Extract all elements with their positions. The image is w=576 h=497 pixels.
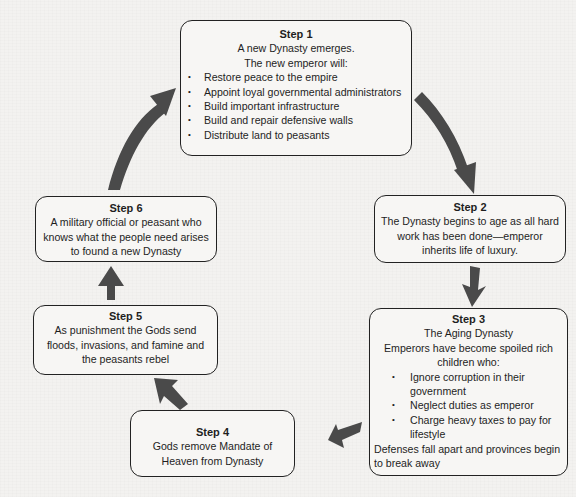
step-5-box: Step 5 As punishment the Gods send flood…	[33, 305, 218, 375]
step-1-bullet: Restore peace to the empire	[186, 70, 406, 84]
step-3-bullet-list: Ignore corruption in their government Ne…	[390, 370, 563, 442]
step-1-line-1: A new Dynasty emerges.	[186, 41, 406, 55]
step-4-box: Step 4 Gods remove Mandate of Heaven fro…	[130, 410, 295, 477]
step-4-text: Gods remove Mandate of Heaven from Dynas…	[139, 439, 286, 468]
step-1-bullet: Distribute land to peasants	[186, 128, 406, 142]
step-6-text: A military official or peasant who knows…	[42, 215, 210, 258]
step-1-bullet: Build important infrastructure	[186, 99, 406, 113]
arrow-step1-to-step2	[414, 92, 476, 194]
step-1-bullet: Appoint loyal governmental administrator…	[186, 85, 406, 99]
step-4-title: Step 4	[139, 425, 286, 439]
step-3-title: Step 3	[374, 312, 563, 326]
step-2-text: The Dynasty begins to age as all hard wo…	[381, 214, 559, 257]
step-3-box: Step 3 The Aging Dynasty Emperors have b…	[369, 308, 568, 476]
step-1-bullet-list: Restore peace to the empire Appoint loya…	[186, 70, 406, 142]
step-3-bullet: Neglect duties as emperor	[390, 398, 563, 412]
step-3-subtitle: The Aging Dynasty	[374, 326, 563, 340]
step-6-box: Step 6 A military official or peasant wh…	[35, 196, 217, 262]
step-1-line-2: The new emperor will:	[186, 56, 406, 70]
arrow-step5-to-step6	[98, 266, 124, 300]
arrow-step6-to-step1	[108, 88, 176, 190]
step-1-bullet: Build and repair defensive walls	[186, 113, 406, 127]
step-3-intro: Emperors have become spoiled rich childr…	[374, 341, 563, 370]
step-3-outro: Defenses fall apart and provinces begin …	[374, 442, 563, 471]
step-3-bullet: Ignore corruption in their government	[390, 370, 563, 399]
step-2-box: Step 2 The Dynasty begins to age as all …	[374, 195, 566, 263]
step-1-title: Step 1	[186, 27, 406, 41]
arrow-step4-to-step5	[154, 378, 188, 410]
step-5-text: As punishment the Gods send floods, inva…	[40, 323, 211, 366]
step-6-title: Step 6	[42, 201, 210, 215]
arrow-step2-to-step3	[462, 266, 486, 307]
step-1-box: Step 1 A new Dynasty emerges. The new em…	[180, 20, 412, 156]
step-2-title: Step 2	[381, 200, 559, 214]
arrow-step3-to-step4	[328, 422, 362, 448]
step-3-bullet: Charge heavy taxes to pay for lifestyle	[390, 413, 563, 442]
step-5-title: Step 5	[40, 309, 211, 323]
